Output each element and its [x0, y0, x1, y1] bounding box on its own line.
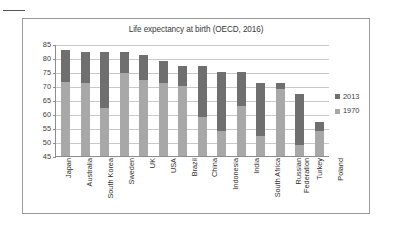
bar-column — [251, 45, 271, 156]
stacked-bar — [256, 83, 265, 156]
bar-column — [76, 45, 96, 156]
x-axis-label: China — [211, 158, 219, 177]
stacked-bar — [178, 66, 187, 156]
x-axis-label-cell: South Africa — [264, 157, 285, 223]
bar-segment-2013 — [120, 52, 129, 73]
stacked-bar — [315, 122, 324, 156]
x-axis-label-cell: Brazil — [180, 157, 201, 223]
y-axis-tick-labels: 858075706560555045 — [37, 45, 53, 157]
bar-segment-2013 — [81, 52, 90, 83]
chart-legend: 20131970 — [335, 93, 359, 115]
x-axis-label: India — [253, 158, 261, 174]
legend-swatch-icon — [335, 94, 340, 99]
y-axis-tick-60: 60 — [43, 111, 51, 118]
x-axis-label-cell: USA — [159, 157, 180, 223]
x-axis-label-cell: Poland — [326, 157, 347, 223]
bar-segment-1970 — [81, 83, 90, 156]
plot-area — [55, 45, 329, 157]
x-axis-label-cell: Turkey — [305, 157, 326, 223]
bar-column — [290, 45, 310, 156]
x-axis-label-cell: China — [201, 157, 222, 223]
x-axis-label: Poland — [337, 158, 345, 181]
bar-column — [173, 45, 193, 156]
y-axis-tick-75: 75 — [43, 69, 51, 76]
bar-segment-2013 — [61, 50, 70, 82]
stacked-bar — [276, 83, 285, 156]
stacked-bar — [295, 94, 304, 156]
bar-column — [232, 45, 252, 156]
bar-segment-2013 — [159, 61, 168, 83]
x-axis-label-cell: Sweden — [118, 157, 139, 223]
chart-container: Life expectancy at birth (OECD, 2016) 85… — [22, 18, 370, 214]
x-axis-label: Brazil — [191, 158, 199, 176]
bar-column — [115, 45, 135, 156]
bar-segment-2013 — [100, 52, 109, 108]
bar-segment-2013 — [139, 55, 148, 80]
y-axis-tick-85: 85 — [43, 41, 51, 48]
bar-segment-1970 — [217, 131, 226, 156]
bar-segment-1970 — [100, 108, 109, 156]
bar-segment-1970 — [61, 82, 70, 156]
y-axis-tick-50: 50 — [43, 139, 51, 146]
stacked-bar — [100, 52, 109, 156]
x-axis-label: USA — [170, 158, 178, 173]
x-axis-label: Indonesia — [232, 158, 240, 190]
bar-segment-2013 — [237, 72, 246, 106]
bar-segment-1970 — [276, 89, 285, 156]
bar-segment-1970 — [198, 117, 207, 156]
y-axis-tick-70: 70 — [43, 83, 51, 90]
x-axis-label: Japan — [65, 158, 73, 178]
bar-segment-1970 — [256, 136, 265, 156]
x-axis-label-cell: Australia — [76, 157, 97, 223]
stacked-bar — [81, 52, 90, 156]
x-axis-label-cell: UK — [138, 157, 159, 223]
legend-label: 2013 — [343, 93, 359, 100]
x-axis-label: UK — [149, 158, 157, 168]
bar-series-group — [56, 45, 329, 156]
bar-segment-1970 — [315, 131, 324, 156]
legend-swatch-icon — [335, 109, 340, 114]
bar-segment-2013 — [295, 94, 304, 144]
x-axis-label: South Africa — [274, 158, 282, 218]
y-axis-tick-45: 45 — [43, 153, 51, 160]
plot-area-wrapper: 858075706560555045 — [37, 45, 329, 157]
x-axis-label-cell: Russian Federation — [284, 157, 305, 223]
bar-segment-1970 — [295, 145, 304, 156]
stacked-bar — [61, 50, 70, 156]
x-axis-label: South Korea — [107, 158, 115, 218]
x-axis-category-labels: JapanAustraliaSouth KoreaSwedenUKUSABraz… — [55, 157, 347, 223]
bar-column — [56, 45, 76, 156]
bar-column — [193, 45, 213, 156]
stacked-bar — [139, 55, 148, 156]
x-axis-label-cell: Indonesia — [222, 157, 243, 223]
x-axis-label: Sweden — [128, 158, 136, 184]
stacked-bar — [217, 72, 226, 156]
bar-segment-2013 — [315, 122, 324, 130]
bar-column — [310, 45, 330, 156]
stacked-bar — [237, 72, 246, 156]
x-axis-label: Australia — [86, 158, 94, 186]
bar-segment-1970 — [120, 73, 129, 156]
bar-segment-1970 — [237, 106, 246, 156]
bar-column — [271, 45, 291, 156]
stacked-bar — [120, 52, 129, 156]
bar-column — [212, 45, 232, 156]
bar-segment-2013 — [178, 66, 187, 86]
legend-label: 1970 — [343, 107, 359, 114]
bar-column — [134, 45, 154, 156]
x-axis-label-cell: South Korea — [97, 157, 118, 223]
bar-segment-2013 — [217, 72, 226, 131]
bar-segment-1970 — [139, 80, 148, 156]
bar-column — [95, 45, 115, 156]
bar-segment-2013 — [198, 66, 207, 116]
legend-item-2013: 2013 — [335, 93, 359, 100]
bar-segment-1970 — [159, 83, 168, 156]
chart-title: Life expectancy at birth (OECD, 2016) — [23, 25, 369, 34]
x-axis-label-cell: India — [243, 157, 264, 223]
legend-item-1970: 1970 — [335, 107, 359, 114]
y-axis-tick-65: 65 — [43, 97, 51, 104]
stacked-bar — [198, 66, 207, 156]
y-axis-tick-80: 80 — [43, 55, 51, 62]
stacked-bar — [159, 61, 168, 156]
x-axis-label-cell: Japan — [55, 157, 76, 223]
